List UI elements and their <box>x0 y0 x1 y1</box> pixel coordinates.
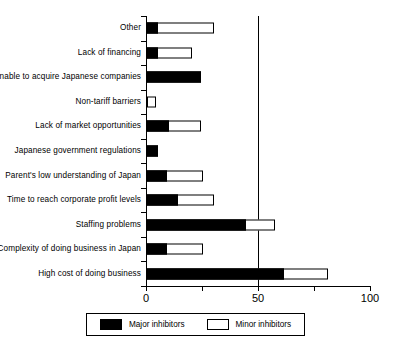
category-label: High cost of doing business <box>38 269 141 279</box>
x-axis-tick <box>258 286 259 291</box>
chart-category-row: Staffing problems <box>0 212 393 237</box>
y-axis-tick <box>141 237 147 238</box>
chart-legend: Major inhibitors Minor inhibitors <box>86 313 305 336</box>
chart-category-row: Non-tariff barriers <box>0 90 393 115</box>
legend-item-major: Major inhibitors <box>100 314 185 335</box>
legend-item-minor: Minor inhibitors <box>207 314 292 335</box>
bar-segment-major <box>147 23 158 34</box>
legend-swatch-major-icon <box>100 319 122 330</box>
chart-category-row: Japanese government regulations <box>0 139 393 164</box>
category-label: Japanese government regulations <box>15 146 141 156</box>
chart-category-row: Parent's low understanding of Japan <box>0 163 393 188</box>
y-axis-tick <box>141 188 147 189</box>
bar-segment-major <box>147 145 158 156</box>
y-axis-tick <box>141 261 147 262</box>
y-axis-tick <box>141 163 147 164</box>
y-axis-tick <box>141 65 147 66</box>
chart-category-row: High cost of doing business <box>0 261 393 286</box>
chart-category-row: Time to reach corporate profit levels <box>0 188 393 213</box>
category-label: Lack of financing <box>78 48 141 58</box>
bar-segment-major <box>147 72 201 83</box>
bar-segment-major <box>147 170 167 181</box>
bar-segment-major <box>147 121 169 132</box>
y-axis-tick <box>141 212 147 213</box>
legend-label-major: Major inhibitors <box>129 320 185 330</box>
category-label: Time to reach corporate profit levels <box>7 195 141 205</box>
x-axis-tick <box>202 286 203 291</box>
chart-category-row: Complexity of doing business in Japan <box>0 237 393 262</box>
category-label: Parent's low understanding of Japan <box>5 171 141 181</box>
bar-segment-major <box>147 219 246 230</box>
x-axis-tick-label: 0 <box>126 292 166 305</box>
x-axis-tick <box>146 286 147 291</box>
chart-category-row: Unable to acquire Japanese companies <box>0 65 393 90</box>
x-axis-tick <box>314 286 315 291</box>
bar-segment-major <box>147 268 284 279</box>
chart-category-row: Lack of market opportunities <box>0 114 393 139</box>
y-axis-tick <box>141 139 147 140</box>
bar-segment-major <box>147 47 158 58</box>
bar-segment-major <box>147 244 167 255</box>
chart-category-row: Lack of financing <box>0 41 393 66</box>
category-label: Complexity of doing business in Japan <box>0 244 141 254</box>
y-axis-tick <box>141 114 147 115</box>
x-axis-tick <box>370 286 371 291</box>
bar-segment-minor <box>147 96 156 107</box>
x-axis-tick-label: 50 <box>238 292 278 305</box>
category-label: Other <box>120 23 141 33</box>
y-axis-tick <box>141 41 147 42</box>
legend-label-minor: Minor inhibitors <box>236 320 292 330</box>
y-axis-tick <box>141 90 147 91</box>
x-axis-tick-label: 100 <box>350 292 390 305</box>
bar-chart: OtherLack of financingUnable to acquire … <box>0 0 393 352</box>
chart-category-row: Other <box>0 16 393 41</box>
legend-swatch-minor-icon <box>207 319 229 330</box>
category-label: Lack of market opportunities <box>35 121 141 131</box>
category-label: Unable to acquire Japanese companies <box>0 72 141 82</box>
y-axis-tick <box>141 16 147 17</box>
category-label: Staffing problems <box>76 220 141 230</box>
category-label: Non-tariff barriers <box>76 97 141 107</box>
bar-segment-major <box>147 195 178 206</box>
